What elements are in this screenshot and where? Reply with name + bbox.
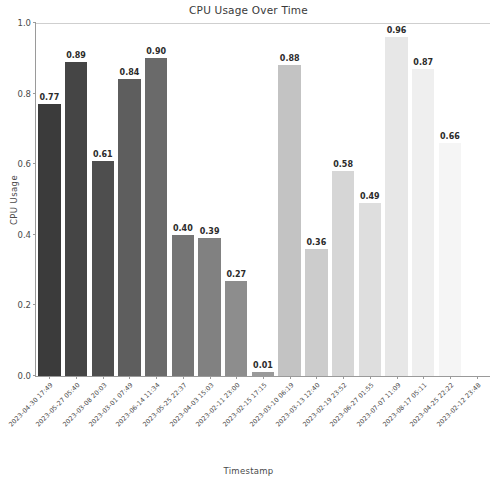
bar[interactable] bbox=[38, 104, 60, 376]
bar[interactable] bbox=[278, 65, 300, 376]
x-axis-label: Timestamp bbox=[0, 466, 497, 476]
bar-slot: 0.902023-06-14 11:34 bbox=[143, 23, 170, 376]
bar-slot: 0.842023-03-01 07:49 bbox=[116, 23, 143, 376]
bar-value-label: 0.66 bbox=[440, 132, 460, 141]
y-axis-tick-label: 0.6 bbox=[17, 159, 36, 169]
x-axis-tick-mark bbox=[263, 376, 264, 379]
bar-slot: 0.582023-02-19 23:52 bbox=[330, 23, 357, 376]
bar[interactable] bbox=[118, 79, 140, 376]
bar[interactable] bbox=[225, 281, 247, 376]
x-axis-tick-mark bbox=[397, 376, 398, 379]
bar-slot: 0.612023-03-08 20:03 bbox=[89, 23, 116, 376]
x-axis-tick-mark bbox=[343, 376, 344, 379]
x-axis-tick-mark bbox=[423, 376, 424, 379]
bar-value-label: 0.40 bbox=[173, 224, 193, 233]
y-axis-tick-label: 0.2 bbox=[17, 300, 36, 310]
bar[interactable] bbox=[305, 249, 327, 376]
y-axis-tick-label: 0.0 bbox=[17, 371, 36, 381]
x-axis-tick-mark bbox=[290, 376, 291, 379]
bar-slot: 0.662023-04-25 22:22 bbox=[437, 23, 464, 376]
chart-title: CPU Usage Over Time bbox=[0, 4, 497, 16]
x-axis-tick-mark bbox=[76, 376, 77, 379]
bar[interactable] bbox=[412, 69, 434, 376]
bar-slot: 0.392023-04-03 15:03 bbox=[196, 23, 223, 376]
bar-value-label: 0.61 bbox=[93, 150, 113, 159]
bar[interactable] bbox=[172, 235, 194, 376]
bar[interactable] bbox=[92, 161, 114, 376]
x-axis-tick-mark bbox=[49, 376, 50, 379]
bar-value-label: 0.84 bbox=[120, 68, 140, 77]
x-axis-tick-label: 2023-04-30 17:49 bbox=[7, 381, 55, 429]
bar[interactable] bbox=[332, 171, 354, 376]
chart-figure: CPU Usage Over Time CPU Usage 0.00.20.40… bbox=[0, 0, 497, 486]
bar[interactable] bbox=[385, 37, 407, 376]
bar-slot: 0.892023-05-27 05:40 bbox=[63, 23, 90, 376]
bar-value-label: 0.49 bbox=[360, 192, 380, 201]
bar-slot: 0.362023-03-13 12:40 bbox=[303, 23, 330, 376]
bar[interactable] bbox=[65, 62, 87, 376]
bar-value-label: 0.89 bbox=[66, 51, 86, 60]
bar[interactable] bbox=[198, 238, 220, 376]
bar-slot: 0.402023-05-25 22:37 bbox=[170, 23, 197, 376]
x-axis-tick-mark bbox=[477, 376, 478, 379]
bar-slot: 2023-02-12 23:48 bbox=[463, 23, 490, 376]
y-axis-tick-label: 1.0 bbox=[17, 18, 36, 28]
bar-value-label: 0.96 bbox=[387, 26, 407, 35]
bar-slot: 0.772023-04-30 17:49 bbox=[36, 23, 63, 376]
bar-value-label: 0.36 bbox=[307, 238, 327, 247]
bar-value-label: 0.39 bbox=[200, 227, 220, 236]
x-axis-tick-mark bbox=[103, 376, 104, 379]
x-axis-tick-mark bbox=[450, 376, 451, 379]
bar-value-label: 0.27 bbox=[226, 270, 246, 279]
bar-slot: 0.012023-02-15 17:15 bbox=[250, 23, 277, 376]
bar-slot: 0.962023-07-07 11:09 bbox=[383, 23, 410, 376]
bar-slot: 0.882023-03-10 06:19 bbox=[276, 23, 303, 376]
x-axis-tick-mark bbox=[236, 376, 237, 379]
plot-area: CPU Usage 0.00.20.40.60.81.0 0.772023-04… bbox=[35, 23, 490, 377]
bar-value-label: 0.58 bbox=[333, 160, 353, 169]
bar-slot: 0.272023-02-11 23:00 bbox=[223, 23, 250, 376]
bar-value-label: 0.77 bbox=[39, 93, 59, 102]
bar-value-label: 0.87 bbox=[413, 58, 433, 67]
bar-value-label: 0.88 bbox=[280, 54, 300, 63]
bar-value-label: 0.90 bbox=[146, 47, 166, 56]
x-axis-tick-mark bbox=[210, 376, 211, 379]
bar-slot: 0.872023-08-17 05:11 bbox=[410, 23, 437, 376]
bar[interactable] bbox=[145, 58, 167, 376]
x-axis-tick-mark bbox=[183, 376, 184, 379]
x-axis-tick-mark bbox=[370, 376, 371, 379]
y-axis-label: CPU Usage bbox=[9, 174, 19, 224]
bar[interactable] bbox=[439, 143, 461, 376]
bar[interactable] bbox=[359, 203, 381, 376]
x-axis-tick-mark bbox=[316, 376, 317, 379]
y-axis-tick-label: 0.8 bbox=[17, 89, 36, 99]
y-axis-tick-label: 0.4 bbox=[17, 230, 36, 240]
bar-value-label: 0.01 bbox=[253, 361, 273, 370]
bar-slot: 0.492023-06-27 01:55 bbox=[356, 23, 383, 376]
x-axis-tick-mark bbox=[129, 376, 130, 379]
x-axis-tick-mark bbox=[156, 376, 157, 379]
